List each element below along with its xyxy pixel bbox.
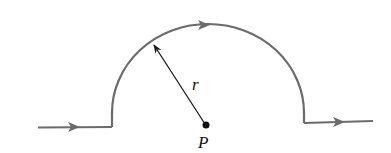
- radius-label: r: [192, 75, 199, 94]
- wire-diagram: r P: [0, 0, 391, 153]
- incoming-left-segment: [38, 112, 112, 132]
- outgoing-right-segment: [304, 112, 373, 127]
- semicircle-arc: [112, 20, 304, 113]
- point-label: P: [197, 133, 208, 152]
- center-point: [203, 122, 210, 129]
